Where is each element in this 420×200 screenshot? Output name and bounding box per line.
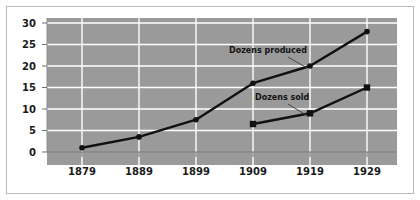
y-tick-label-30: 30 — [12, 18, 36, 29]
y-tick-label-20: 20 — [12, 61, 36, 72]
annotation-dozens-sold: Dozens sold — [255, 93, 309, 102]
x-tick-label-1929: 1929 — [342, 166, 392, 177]
y-tick-label-5: 5 — [12, 125, 36, 136]
x-tick-label-1889: 1889 — [114, 166, 164, 177]
chart-figure: 30 25 20 15 10 5 0 1879 1889 1899 1909 1… — [0, 0, 420, 200]
x-tick-label-1879: 1879 — [57, 166, 107, 177]
y-tick-label-25: 25 — [12, 39, 36, 50]
x-tick-label-1899: 1899 — [171, 166, 221, 177]
x-tick-label-1919: 1919 — [285, 166, 335, 177]
y-tick-label-0: 0 — [12, 147, 36, 158]
annotation-dozens-produced: Dozens produced — [229, 46, 307, 55]
y-tick-label-15: 15 — [12, 82, 36, 93]
y-tick-label-10: 10 — [12, 104, 36, 115]
x-tick-label-1909: 1909 — [228, 166, 278, 177]
y-tick-marks — [42, 23, 47, 152]
plot-background — [47, 18, 397, 165]
